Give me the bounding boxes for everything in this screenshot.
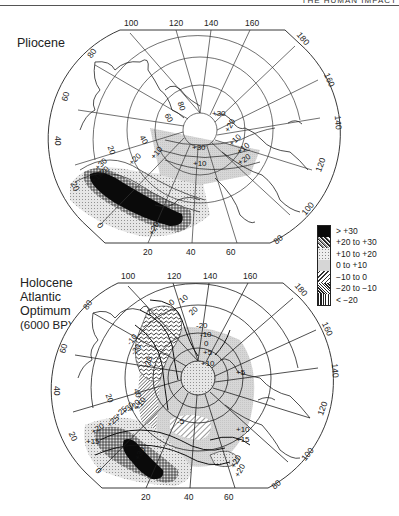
svg-text:40: 40 xyxy=(186,247,196,257)
svg-text:+15: +15 xyxy=(86,437,100,446)
svg-text:120: 120 xyxy=(167,271,181,281)
legend-item: 0 to +10 xyxy=(317,260,377,272)
svg-text:40: 40 xyxy=(53,136,63,146)
svg-text:+30: +30 xyxy=(192,143,206,152)
swatch-dense-diagonal-hatch xyxy=(317,283,331,295)
svg-text:40: 40 xyxy=(52,386,62,396)
svg-text:60: 60 xyxy=(226,247,236,257)
svg-text:+5: +5 xyxy=(203,348,213,357)
svg-text:20: 20 xyxy=(143,247,153,257)
svg-text:+10: +10 xyxy=(193,159,207,168)
svg-text:100: 100 xyxy=(121,271,135,281)
legend: > +30 +20 to +30 +10 to +20 0 to +10 −10… xyxy=(317,225,377,306)
svg-text:120: 120 xyxy=(169,18,183,28)
swatch-light-grey xyxy=(317,260,331,272)
svg-text:-10: -10 xyxy=(200,330,212,339)
legend-item: −20 to −10 xyxy=(317,283,377,295)
svg-text:140: 140 xyxy=(203,271,217,281)
svg-text:0: 0 xyxy=(204,339,209,348)
swatch-light-stipple xyxy=(317,248,331,260)
map-holocene: 100 120 140 160 180 160 140 120 100 80 8… xyxy=(51,271,341,502)
svg-text:+30: +30 xyxy=(212,109,226,118)
swatch-dense-stipple xyxy=(317,237,331,249)
legend-item: +20 to +30 xyxy=(317,237,377,249)
svg-text:+10: +10 xyxy=(236,425,250,434)
swatch-diagonal-hatch xyxy=(317,271,331,283)
legend-item: +10 to +20 xyxy=(317,248,377,260)
svg-text:40: 40 xyxy=(184,492,194,502)
legend-item: > +30 xyxy=(317,225,377,237)
svg-text:160: 160 xyxy=(243,271,257,281)
swatch-solid-black xyxy=(317,225,331,237)
svg-text:60: 60 xyxy=(224,492,234,502)
svg-text:140: 140 xyxy=(204,18,218,28)
legend-item: −10 to 0 xyxy=(317,271,377,283)
svg-text:20: 20 xyxy=(141,492,151,502)
svg-text:+10: +10 xyxy=(201,359,215,368)
svg-text:-5: -5 xyxy=(177,417,185,426)
svg-text:140: 140 xyxy=(333,115,344,130)
svg-text:+15: +15 xyxy=(236,435,250,444)
swatch-vertical-hatch xyxy=(317,294,331,306)
svg-text:100: 100 xyxy=(124,18,138,28)
legend-item: < −20 xyxy=(317,294,377,306)
svg-text:-20: -20 xyxy=(196,321,208,330)
svg-text:140: 140 xyxy=(330,363,341,378)
svg-text:+5: +5 xyxy=(236,368,246,377)
svg-text:160: 160 xyxy=(245,18,259,28)
map-pliocene: 100 120 140 160 180 160 140 120 100 80 8… xyxy=(48,18,344,257)
